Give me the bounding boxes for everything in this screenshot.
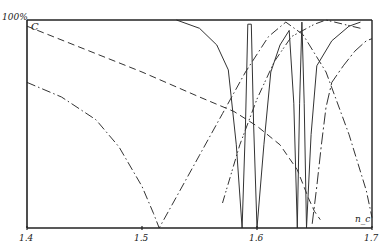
x-tick-label: 1.4 [19,233,33,243]
x-tick-label: 1.6 [249,233,263,243]
series-line-4 [312,39,372,224]
series-line-3 [223,20,361,203]
x-axis-label: n_c [355,214,370,224]
x-tick-label: 1.5 [134,233,148,243]
curve-label-c: C [31,21,39,32]
y-top-label: 100% [2,12,28,22]
series-line-1 [27,22,372,228]
series-line-2 [177,20,361,228]
x-tick-label: 1.7 [364,233,378,243]
curves [27,20,372,228]
chart-canvas [0,0,384,249]
